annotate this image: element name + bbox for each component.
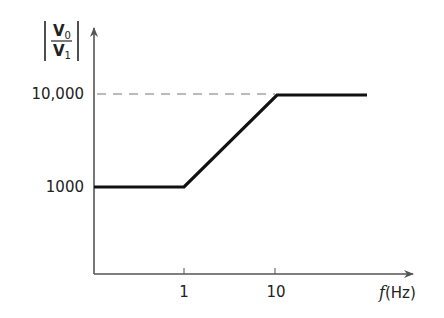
magnitude-curve <box>94 95 367 187</box>
x-axis-label: f(Hz) <box>378 283 416 302</box>
x-axis-label-unit: (Hz) <box>385 284 416 302</box>
y-axis-label: V0 V1 <box>45 21 78 61</box>
bode-plot: 10,000 1000 1 10 f(Hz) V0 V1 <box>0 0 444 318</box>
y-tick-label-10000: 10,000 <box>32 85 85 103</box>
x-tick-label-10: 10 <box>266 283 285 301</box>
denominator: V1 <box>53 42 71 61</box>
numerator: V0 <box>53 22 71 41</box>
x-tick-label-1: 1 <box>179 283 189 301</box>
y-tick-label-1000: 1000 <box>46 178 84 196</box>
